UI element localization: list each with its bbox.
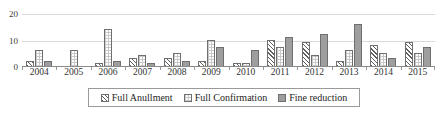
bar-2011-full-anullment[interactable] bbox=[267, 40, 275, 67]
legend-item-full-confirmation[interactable]: Full Confirmation bbox=[184, 93, 268, 103]
bar-2006-full-anullment[interactable] bbox=[95, 63, 103, 66]
bar-2015-full-confirmation[interactable] bbox=[414, 53, 422, 66]
x-axis-label-2012: 2012 bbox=[297, 68, 331, 78]
legend-swatch-icon bbox=[184, 94, 192, 102]
bar-2012-full-confirmation[interactable] bbox=[311, 55, 319, 66]
bar-2005-full-confirmation[interactable] bbox=[70, 50, 78, 66]
legend-label: Full Anullment bbox=[112, 93, 173, 103]
x-axis-label-2014: 2014 bbox=[366, 68, 400, 78]
bar-2010-fine-reduction[interactable] bbox=[251, 50, 259, 66]
bar-group-2005 bbox=[56, 14, 90, 66]
chart-legend: Full AnullmentFull ConfirmationFine redu… bbox=[88, 88, 360, 107]
x-axis-label-2010: 2010 bbox=[229, 68, 263, 78]
bar-2009-full-anullment[interactable] bbox=[198, 61, 206, 66]
bar-2008-full-anullment[interactable] bbox=[164, 58, 172, 66]
bar-2014-fine-reduction[interactable] bbox=[388, 58, 396, 66]
bar-2011-full-confirmation[interactable] bbox=[276, 47, 284, 66]
bar-group-2009 bbox=[194, 14, 228, 66]
bar-2012-full-anullment[interactable] bbox=[302, 42, 310, 66]
bar-2010-full-confirmation[interactable] bbox=[242, 63, 250, 66]
bar-2013-full-confirmation[interactable] bbox=[345, 50, 353, 66]
bar-2007-full-confirmation[interactable] bbox=[138, 55, 146, 66]
legend-label: Full Confirmation bbox=[195, 93, 268, 103]
bar-groups bbox=[22, 14, 435, 66]
bar-2006-fine-reduction[interactable] bbox=[113, 61, 121, 66]
x-axis-label-2009: 2009 bbox=[194, 68, 228, 78]
bar-2009-full-confirmation[interactable] bbox=[207, 40, 215, 67]
legend-swatch-icon bbox=[278, 94, 286, 102]
bar-group-2010 bbox=[229, 14, 263, 66]
bar-2014-full-anullment[interactable] bbox=[370, 45, 378, 66]
bar-group-2004 bbox=[22, 14, 56, 66]
bar-2006-full-confirmation[interactable] bbox=[104, 29, 112, 66]
bar-group-2008 bbox=[160, 14, 194, 66]
x-axis-label-2008: 2008 bbox=[160, 68, 194, 78]
legend-item-full-anullment[interactable]: Full Anullment bbox=[101, 93, 173, 103]
bar-2013-full-anullment[interactable] bbox=[336, 61, 344, 66]
bar-chart: 01020 2004200520062007200820092010201120… bbox=[0, 0, 443, 117]
bar-group-2014 bbox=[366, 14, 400, 66]
x-axis-label-2006: 2006 bbox=[91, 68, 125, 78]
x-axis-label-2011: 2011 bbox=[263, 68, 297, 78]
bar-2007-fine-reduction[interactable] bbox=[147, 63, 155, 66]
x-axis-label-2015: 2015 bbox=[401, 68, 435, 78]
bar-2009-fine-reduction[interactable] bbox=[216, 47, 224, 66]
bar-2004-full-anullment[interactable] bbox=[26, 61, 34, 66]
plot-area: 01020 bbox=[22, 14, 435, 67]
bar-group-2011 bbox=[263, 14, 297, 66]
legend-swatch-icon bbox=[101, 94, 109, 102]
x-axis-label-2005: 2005 bbox=[56, 68, 90, 78]
bar-2013-fine-reduction[interactable] bbox=[354, 24, 362, 66]
x-axis-label-2007: 2007 bbox=[125, 68, 159, 78]
bar-2011-fine-reduction[interactable] bbox=[285, 37, 293, 66]
y-tick-label: 10 bbox=[9, 36, 18, 45]
x-axis-label-2004: 2004 bbox=[22, 68, 56, 78]
bar-2014-full-confirmation[interactable] bbox=[379, 53, 387, 66]
bar-2008-fine-reduction[interactable] bbox=[182, 61, 190, 66]
bar-group-2015 bbox=[401, 14, 435, 66]
legend-label: Fine reduction bbox=[289, 93, 347, 103]
bar-group-2007 bbox=[125, 14, 159, 66]
bar-2007-full-anullment[interactable] bbox=[129, 58, 137, 66]
bar-group-2013 bbox=[332, 14, 366, 66]
bar-group-2006 bbox=[91, 14, 125, 66]
bar-2015-fine-reduction[interactable] bbox=[423, 47, 431, 66]
bar-2012-fine-reduction[interactable] bbox=[320, 34, 328, 66]
bar-2015-full-anullment[interactable] bbox=[405, 42, 413, 66]
x-axis-label-2013: 2013 bbox=[332, 68, 366, 78]
bar-group-2012 bbox=[297, 14, 331, 66]
bar-2004-full-confirmation[interactable] bbox=[35, 50, 43, 66]
y-tick-label: 20 bbox=[9, 10, 18, 19]
bar-2008-full-confirmation[interactable] bbox=[173, 53, 181, 66]
legend-item-fine-reduction[interactable]: Fine reduction bbox=[278, 93, 347, 103]
x-axis-labels: 2004200520062007200820092010201120122013… bbox=[22, 68, 435, 78]
y-tick-label: 0 bbox=[14, 63, 19, 72]
bar-2004-fine-reduction[interactable] bbox=[44, 61, 52, 66]
bar-2010-full-anullment[interactable] bbox=[233, 63, 241, 66]
